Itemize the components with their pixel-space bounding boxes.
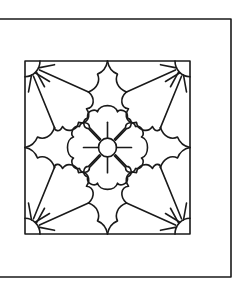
outer-frame bbox=[0, 19, 231, 277]
flower-petal-left bbox=[68, 123, 101, 173]
flower-petal-bottom bbox=[84, 155, 131, 190]
inner-square bbox=[25, 61, 190, 234]
tile-artwork bbox=[0, 0, 247, 298]
flower-petal-top bbox=[84, 106, 131, 141]
center-circle bbox=[99, 138, 117, 157]
flower-petal-right bbox=[115, 123, 148, 173]
